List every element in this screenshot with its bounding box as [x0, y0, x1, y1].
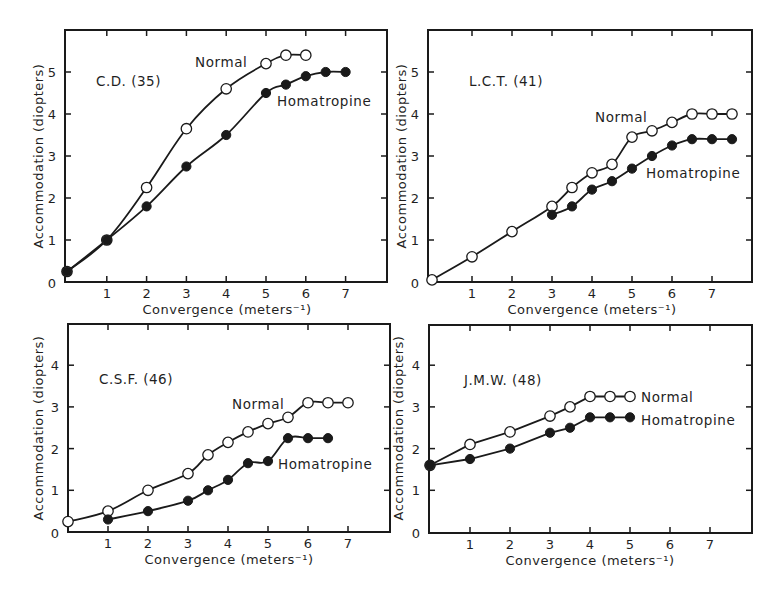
y-tick-label: 4	[411, 107, 419, 122]
subject-label: J.M.W. (48)	[463, 372, 542, 388]
normal-data-point	[223, 437, 233, 447]
series-points	[425, 391, 635, 470]
x-tick-label: 5	[628, 286, 636, 301]
y-tick-label: 0	[51, 526, 59, 541]
normal-data-point	[727, 109, 737, 119]
normal-data-point	[687, 109, 697, 119]
normal-data-point	[667, 117, 677, 127]
normal-data-point	[243, 427, 253, 437]
y-axis-label: Accommodation (diopters)	[391, 336, 406, 521]
normal-data-point	[565, 402, 575, 412]
normal-data-point	[627, 132, 637, 142]
normal-data-point	[203, 450, 213, 460]
normal-series-label: Normal	[195, 54, 247, 70]
homatropine-data-point	[727, 135, 736, 144]
x-tick-label: 6	[304, 536, 312, 551]
homatropine-data-point	[182, 162, 191, 171]
homatropine-data-point	[505, 444, 514, 453]
panel-jmw: 123456701234 J.M.W. (48) Normal Homatrop…	[391, 325, 752, 568]
y-tick-label: 1	[412, 483, 420, 498]
y-tick-label: 2	[48, 191, 56, 206]
normal-data-point	[625, 391, 635, 401]
x-tick-label: 2	[144, 536, 152, 551]
plot-frame	[68, 324, 390, 532]
normal-data-point	[465, 439, 475, 449]
x-tick-label: 6	[668, 286, 676, 301]
y-tick-label: 0	[411, 276, 419, 291]
x-tick-label: 3	[182, 286, 190, 301]
y-axis-label: Accommodation (diopters)	[31, 336, 46, 521]
homatropine-data-point	[605, 413, 614, 422]
normal-data-point	[143, 485, 153, 495]
x-tick-label: 1	[466, 537, 474, 552]
homatropine-series-label: Homatropine	[278, 456, 372, 472]
homatropine-data-point	[222, 130, 231, 139]
subject-label: L.C.T. (41)	[469, 73, 543, 89]
y-tick-label: 0	[48, 276, 56, 291]
normal-data-point	[181, 124, 191, 134]
homatropine-data-point	[545, 428, 554, 437]
homatropine-data-point	[281, 80, 290, 89]
homatropine-data-point	[102, 235, 111, 244]
normal-data-point	[607, 159, 617, 169]
y-tick-label: 2	[412, 442, 420, 457]
homatropine-data-point	[203, 486, 212, 495]
homatropine-data-point	[303, 434, 312, 443]
x-axis-label: Convergence (meters⁻¹)	[506, 553, 675, 568]
subject-label: C.D. (35)	[96, 73, 161, 89]
y-tick-label: 3	[412, 400, 420, 415]
normal-data-point	[343, 398, 353, 408]
x-tick-label: 3	[548, 286, 556, 301]
y-tick-label: 3	[51, 400, 59, 415]
normal-data-point	[183, 468, 193, 478]
homatropine-data-point	[667, 141, 676, 150]
homatropine-data-point	[647, 151, 656, 160]
homatropine-series-label: Homatropine	[641, 412, 735, 428]
figure: 1234567012345 C.D. (35) Normal Homatropi…	[0, 0, 778, 597]
homatropine-data-point	[263, 457, 272, 466]
y-tick-label: 5	[411, 65, 419, 80]
y-tick-label: 1	[411, 233, 419, 248]
normal-data-point	[587, 168, 597, 178]
homatropine-data-point	[183, 496, 192, 505]
homatropine-data-point	[62, 267, 71, 276]
normal-series-label: Normal	[595, 109, 647, 125]
x-tick-label: 5	[264, 536, 272, 551]
x-tick-label: 4	[224, 536, 232, 551]
homatropine-data-point	[625, 413, 634, 422]
axis-ticks: 123456701234	[51, 324, 390, 551]
normal-data-point	[707, 109, 717, 119]
homatropine-data-point	[283, 434, 292, 443]
homatropine-data-point	[707, 135, 716, 144]
x-tick-label: 1	[103, 286, 111, 301]
y-tick-label: 0	[412, 526, 420, 541]
x-tick-label: 1	[468, 286, 476, 301]
homatropine-data-point	[585, 413, 594, 422]
normal-data-point	[545, 411, 555, 421]
homatropine-data-point	[143, 507, 152, 516]
y-axis-label: Accommodation (diopters)	[394, 64, 409, 249]
homatropine-series-label: Homatropine	[646, 165, 740, 181]
x-tick-label: 7	[706, 537, 714, 552]
normal-data-point	[303, 398, 313, 408]
y-tick-label: 1	[51, 483, 59, 498]
x-tick-label: 2	[142, 286, 150, 301]
normal-data-point	[261, 58, 271, 68]
y-tick-label: 3	[411, 149, 419, 164]
x-tick-label: 6	[302, 286, 310, 301]
homatropine-data-point	[323, 434, 332, 443]
x-tick-label: 7	[708, 286, 716, 301]
homatropine-data-point	[627, 164, 636, 173]
homatropine-data-point	[465, 454, 474, 463]
normal-data-point	[567, 182, 577, 192]
y-tick-label: 1	[48, 233, 56, 248]
homatropine-data-point	[587, 185, 596, 194]
x-tick-label: 5	[262, 286, 270, 301]
homatropine-data-point	[321, 67, 330, 76]
homatropine-data-point	[142, 202, 151, 211]
normal-curve	[430, 397, 630, 466]
homatropine-data-point	[341, 67, 350, 76]
normal-data-point	[605, 391, 615, 401]
normal-data-point	[283, 412, 293, 422]
homatropine-data-point	[425, 461, 434, 470]
